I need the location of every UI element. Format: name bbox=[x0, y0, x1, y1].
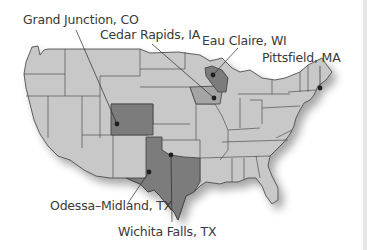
label-grand-junction: Grand Junction, CO bbox=[23, 12, 139, 27]
label-cedar-rapids: Cedar Rapids, IA bbox=[100, 27, 200, 42]
label-wichita-falls: Wichita Falls, TX bbox=[118, 224, 216, 239]
label-pittsfield: Pittsfield, MA bbox=[262, 50, 341, 65]
label-eau-claire: Eau Claire, WI bbox=[202, 33, 287, 48]
label-odessa-midland: Odessa–Midland, TX bbox=[50, 198, 172, 213]
state-colorado bbox=[111, 104, 153, 135]
page-edge bbox=[363, 0, 367, 250]
